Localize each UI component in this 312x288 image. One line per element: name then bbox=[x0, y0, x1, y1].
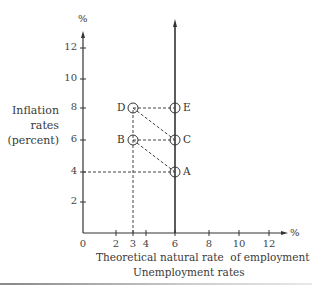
x-axis-label: Unemployment rates bbox=[133, 266, 245, 278]
x-tick-12: 12 bbox=[263, 238, 276, 249]
x-tick-6: 6 bbox=[172, 238, 178, 249]
y-axis-arrow bbox=[81, 31, 85, 38]
x-tick-4: 4 bbox=[143, 238, 149, 249]
x-tick-2: 2 bbox=[113, 238, 119, 249]
y-tick-6: 6 bbox=[61, 133, 77, 144]
x-tick-0: 0 bbox=[80, 238, 86, 249]
dashed-guides bbox=[83, 108, 175, 233]
y-axis-label-line3: (percent) bbox=[7, 134, 59, 147]
y-tick-12: 12 bbox=[61, 41, 77, 52]
y-tick-8: 8 bbox=[61, 101, 77, 112]
y-tick-10: 10 bbox=[61, 72, 77, 83]
bottom-divider bbox=[0, 283, 312, 285]
x-tick-3: 3 bbox=[130, 238, 136, 249]
x-axis-arrow bbox=[281, 231, 288, 235]
y-axis-unit: % bbox=[78, 13, 88, 24]
point-c-label: C bbox=[183, 133, 191, 145]
x-axis-sublabel: Theoretical natural rate of employment bbox=[96, 251, 310, 263]
x-axis-unit: % bbox=[290, 227, 300, 238]
point-a-label: A bbox=[183, 165, 191, 177]
y-tick-4: 4 bbox=[61, 165, 77, 176]
y-axis-label-line2: rates bbox=[31, 119, 59, 132]
point-e-label: E bbox=[183, 101, 191, 113]
point-b-label: B bbox=[117, 133, 125, 145]
point-d-label: D bbox=[117, 101, 125, 113]
x-tick-10: 10 bbox=[233, 238, 246, 249]
x-tick-8: 8 bbox=[206, 238, 212, 249]
natural-rate-arrow bbox=[173, 19, 177, 27]
y-axis-label-line1: Inflation bbox=[12, 104, 59, 117]
y-tick-2: 2 bbox=[61, 195, 77, 206]
